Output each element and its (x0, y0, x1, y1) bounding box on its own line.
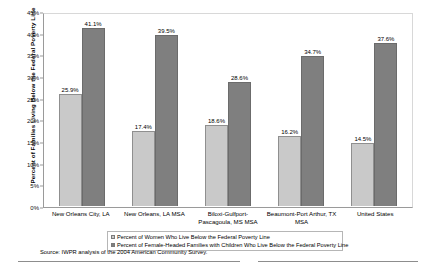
bar[interactable] (59, 94, 82, 206)
bar[interactable] (278, 136, 301, 206)
y-axis-tick-label: 40% (27, 32, 39, 38)
bar[interactable] (155, 35, 178, 206)
x-axis-category-label: New Orleans, LA MSA (118, 210, 192, 226)
bar-value-label: 41.1% (85, 21, 102, 27)
legend-swatch-icon-families (111, 243, 115, 247)
bar-value-label: 16.2% (281, 129, 298, 135)
bar[interactable] (374, 43, 397, 206)
y-axis-tick-label: 15% (27, 140, 39, 146)
bar-slot: 41.1% (82, 14, 105, 206)
legend-item-families: Percent of Female-Headed Families with C… (111, 241, 339, 249)
bar[interactable] (205, 125, 228, 206)
bar[interactable] (132, 131, 155, 206)
bar-groups: 25.9%41.1%17.4%39.5%18.6%28.6%16.2%34.7%… (45, 14, 411, 206)
legend-swatch-icon-women (111, 235, 115, 239)
bar-slot: 39.5% (155, 14, 178, 206)
y-axis-tick-label: 30% (27, 75, 39, 81)
page-rule-right (258, 261, 418, 262)
source-note: Source: IWPR analysis of the 2004 Americ… (40, 249, 207, 255)
bar-slot: 25.9% (59, 14, 82, 206)
bar-slot: 28.6% (228, 14, 251, 206)
bar-group: 17.4%39.5% (118, 14, 191, 206)
chart-page: Percent of Families Living Below the Fed… (0, 0, 431, 269)
x-axis-labels: New Orleans City, LANew Orleans, LA MSAB… (44, 210, 412, 226)
bar[interactable] (82, 28, 105, 206)
bar-value-label: 37.6% (377, 36, 394, 42)
y-axis-tick-label: 20% (27, 118, 39, 124)
bar[interactable] (228, 82, 251, 206)
bar[interactable] (301, 56, 324, 206)
y-axis-tick-label: 0% (30, 205, 39, 211)
chart-frame: Percent of Families Living Below the Fed… (4, 4, 427, 256)
plot-area: 25.9%41.1%17.4%39.5%18.6%28.6%16.2%34.7%… (43, 13, 413, 208)
x-axis-category-label: New Orleans City, LA (44, 210, 118, 226)
bar-slot: 16.2% (278, 14, 301, 206)
bar-value-label: 34.7% (304, 49, 321, 55)
bar-group: 25.9%41.1% (45, 14, 118, 206)
x-axis-category-label: Biloxi-Gulfport-Pascagoula, MS MSA (191, 210, 265, 226)
bar-group: 18.6%28.6% (191, 14, 264, 206)
bar-value-label: 25.9% (62, 87, 79, 93)
bar-value-label: 18.6% (208, 118, 225, 124)
bar-slot: 34.7% (301, 14, 324, 206)
bar[interactable] (351, 143, 374, 206)
y-axis-tick-label: 45% (27, 10, 39, 16)
legend-item-women: Percent of Women Who Live Below the Fede… (111, 233, 339, 241)
bar-slot: 18.6% (205, 14, 228, 206)
legend-label-women: Percent of Women Who Live Below the Fede… (117, 234, 270, 240)
bar-group: 14.5%37.6% (338, 14, 411, 206)
y-axis-tick-label: 10% (27, 162, 39, 168)
page-rule-left (18, 261, 240, 262)
legend-label-families: Percent of Female-Headed Families with C… (117, 242, 348, 248)
x-axis-category-label: United States (338, 210, 412, 226)
bar-value-label: 17.4% (135, 124, 152, 130)
bar-value-label: 28.6% (231, 75, 248, 81)
bar-value-label: 14.5% (354, 136, 371, 142)
x-axis-category-label: Beaumont-Port Arthur, TX MSA (265, 210, 339, 226)
y-axis-tick-label: 25% (27, 97, 39, 103)
bar-group: 16.2%34.7% (265, 14, 338, 206)
chart-legend: Percent of Women Who Live Below the Fede… (107, 231, 343, 251)
y-axis-tick-label: 35% (27, 53, 39, 59)
bar-slot: 37.6% (374, 14, 397, 206)
bar-slot: 17.4% (132, 14, 155, 206)
bar-value-label: 39.5% (158, 28, 175, 34)
bar-slot: 14.5% (351, 14, 374, 206)
y-axis-ticks: 0%5%10%15%20%25%30%35%40%45% (4, 13, 43, 208)
y-axis-tick-label: 5% (30, 183, 39, 189)
